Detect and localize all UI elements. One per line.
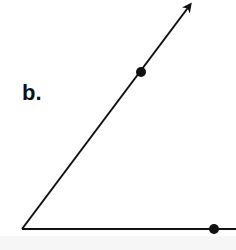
point-on-side [209, 224, 219, 234]
diagonal-ray [22, 5, 190, 229]
angle-diagram [0, 0, 236, 250]
point-on-ray [136, 67, 146, 77]
